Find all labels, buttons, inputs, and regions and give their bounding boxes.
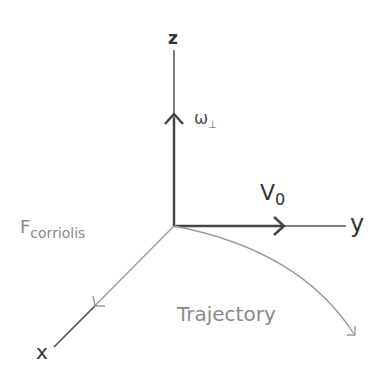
y-axis-label: y <box>350 210 364 238</box>
trajectory-label: Trajectory <box>177 302 276 326</box>
force-label: Fcorriolis <box>20 216 85 241</box>
z-axis-label: z <box>168 28 178 48</box>
velocity-symbol: V <box>260 180 275 205</box>
omega-symbol: ω <box>194 108 208 128</box>
omega-subscript: ⊥ <box>208 119 217 130</box>
omega-label: ω⊥ <box>194 108 217 130</box>
velocity-label: V0 <box>260 180 285 209</box>
x-axis-dark-end <box>54 305 96 347</box>
velocity-subscript: 0 <box>275 190 285 209</box>
force-symbol: F <box>20 216 30 237</box>
force-subscript: corriolis <box>30 225 85 241</box>
coriolis-diagram: z ω⊥ V0 y Fcorriolis Trajectory x <box>0 0 384 379</box>
x-axis-label: x <box>36 340 48 364</box>
